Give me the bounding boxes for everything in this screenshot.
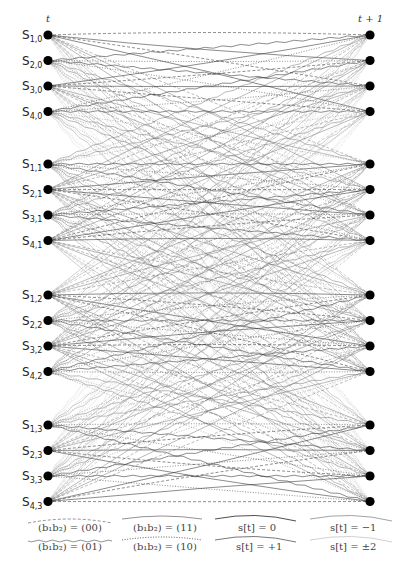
state-node-right-1-2 (365, 290, 374, 299)
edge-4-0-to-4-3 (48, 112, 370, 502)
edge-1-3-to-1-2 (48, 295, 370, 425)
state-node-left-2-1 (43, 185, 52, 194)
edge-2-0-to-1-0 (48, 35, 370, 61)
state-node-left-1-1 (43, 159, 52, 168)
legend-label-s0: s[t] = 0 (238, 522, 276, 533)
state-node-left-3-0 (43, 81, 52, 90)
legend-item-11: (b₁b₂) = (11) (122, 516, 202, 533)
legend-shade-0-line (215, 515, 296, 521)
edge-1-2-to-1-1 (48, 164, 370, 295)
edge-4-3-to-4-1 (48, 241, 370, 502)
state-label-3-3: S3,3 (22, 469, 42, 485)
state-label-2-1: S2,1 (22, 183, 42, 199)
state-node-right-4-3 (365, 497, 374, 506)
state-node-right-2-2 (365, 316, 374, 325)
state-label-3-1: S3,1 (22, 208, 42, 224)
legend-item-sp1: s[t] = +1 (215, 536, 296, 552)
state-label-1-3: S1,3 (22, 418, 42, 434)
state-node-right-1-1 (365, 159, 374, 168)
state-node-left-1-0 (43, 30, 52, 39)
state-node-right-1-0 (365, 30, 374, 39)
state-label-3-2: S3,2 (22, 339, 42, 355)
state-node-left-1-3 (43, 420, 52, 429)
legend-label-01: (b₁b₂) = (01) (38, 541, 102, 552)
legend-label-10: (b₁b₂) = (10) (133, 541, 197, 552)
legend-shade-minus1-line (310, 515, 392, 521)
state-node-left-2-0 (43, 56, 52, 65)
edge-3-3-to-3-3 (48, 475, 370, 477)
state-label-1-2: S1,2 (22, 288, 42, 304)
state-label-4-2: S4,2 (22, 365, 42, 381)
edge-1-3-to-2-1 (48, 190, 370, 426)
legend: (b₁b₂) = (00) (b₁b₂) = (11) s[t] = 0 s[t… (28, 515, 392, 552)
edge-1-1-to-1-2 (48, 164, 370, 295)
state-node-right-3-1 (365, 210, 374, 219)
state-node-left-4-0 (43, 107, 52, 116)
edge-3-1-to-1-0 (48, 35, 370, 215)
state-label-4-0: S4,0 (22, 105, 42, 121)
state-label-2-2: S2,2 (22, 314, 42, 330)
state-node-right-3-2 (365, 341, 374, 350)
state-node-right-1-3 (365, 420, 374, 429)
edge-2-1-to-2-0 (48, 61, 370, 190)
edge-4-3-to-1-2 (48, 295, 370, 502)
edge-4-2-to-4-2 (48, 372, 370, 373)
state-label-3-0: S3,0 (22, 79, 42, 95)
time-label-t: t (46, 13, 51, 24)
edge-2-1-to-1-1 (48, 164, 370, 190)
state-node-left-1-2 (43, 290, 52, 299)
state-node-right-2-1 (365, 185, 374, 194)
legend-item-sm1: s[t] = −1 (310, 515, 392, 533)
legend-label-sm1: s[t] = −1 (330, 522, 376, 533)
edge-2-2-to-3-2 (48, 321, 370, 347)
legend-solid-line (122, 516, 202, 519)
state-label-4-3: S4,3 (22, 495, 42, 511)
state-node-right-4-1 (365, 236, 374, 245)
state-node-right-4-2 (365, 367, 374, 376)
trellis-edges (48, 33, 370, 502)
state-node-left-3-1 (43, 210, 52, 219)
state-label-2-0: S2,0 (22, 54, 42, 70)
edge-3-3-to-4-3 (48, 476, 370, 502)
trellis-diagram: S1,0S2,0S3,0S4,0S1,1S2,1S3,1S4,1S1,2S2,2… (0, 0, 408, 571)
state-label-2-3: S2,3 (22, 444, 42, 460)
state-node-left-4-3 (43, 497, 52, 506)
edge-1-1-to-2-1 (48, 164, 370, 190)
time-label-t-plus-1: t + 1 (358, 13, 383, 24)
state-node-right-2-0 (365, 56, 374, 65)
legend-dotted-line (122, 537, 202, 540)
state-label-1-1: S1,1 (22, 157, 42, 173)
state-node-right-4-0 (365, 107, 374, 116)
edge-1-0-to-1-0 (48, 33, 370, 36)
state-node-left-4-1 (43, 236, 52, 245)
state-node-right-3-0 (365, 81, 374, 90)
legend-item-01: (b₁b₂) = (01) (28, 540, 112, 552)
legend-label-00: (b₁b₂) = (00) (38, 522, 102, 533)
edge-1-0-to-3-1 (48, 35, 370, 215)
legend-item-10: (b₁b₂) = (10) (122, 537, 202, 552)
legend-label-11: (b₁b₂) = (11) (133, 522, 197, 533)
right-nodes (365, 30, 374, 506)
legend-item-s0: s[t] = 0 (215, 515, 296, 533)
edge-2-3-to-2-0 (48, 61, 370, 451)
edge-3-0-to-1-0 (48, 35, 370, 86)
state-node-left-2-2 (43, 316, 52, 325)
state-node-right-3-3 (365, 471, 374, 480)
legend-item-spm2: s[t] = ±2 (310, 536, 392, 552)
legend-item-00: (b₁b₂) = (00) (28, 519, 112, 533)
edge-2-0-to-2-1 (48, 61, 370, 190)
state-label-4-1: S4,1 (22, 234, 42, 250)
state-node-left-2-3 (43, 446, 52, 455)
state-node-left-3-2 (43, 341, 52, 350)
legend-label-spm2: s[t] = ±2 (330, 541, 376, 552)
state-label-1-0: S1,0 (22, 28, 42, 44)
edge-3-1-to-4-3 (48, 215, 370, 502)
state-node-left-3-3 (43, 471, 52, 480)
legend-label-sp1: s[t] = +1 (236, 541, 282, 552)
edge-1-2-to-1-3 (48, 295, 370, 425)
left-nodes: S1,0S2,0S3,0S4,0S1,1S2,1S3,1S4,1S1,2S2,2… (22, 28, 53, 511)
edge-1-0-to-3-0 (48, 35, 370, 86)
state-node-left-4-2 (43, 367, 52, 376)
state-node-right-2-3 (365, 446, 374, 455)
